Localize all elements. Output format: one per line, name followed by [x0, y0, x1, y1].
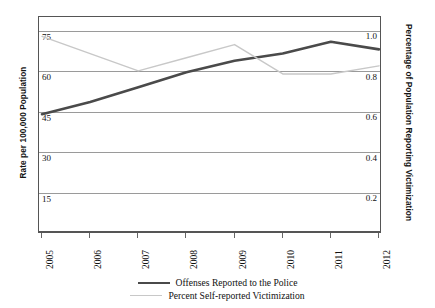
x-axis-tick-label: 2009 [238, 250, 248, 269]
x-axis-tick [282, 233, 283, 238]
legend-item-label: Offenses Reported to the Police [176, 277, 298, 288]
legend-item-label: Percent Self-reported Victimization [168, 290, 304, 301]
legend-line-swatch-icon [130, 295, 162, 296]
x-axis-tick-label: 2008 [189, 250, 199, 269]
x-axis-tick [378, 233, 379, 238]
x-axis-tick-label: 2012 [382, 250, 392, 269]
series-layer [39, 17, 382, 233]
x-axis-tick [330, 233, 331, 238]
x-axis-tick-label: 2006 [93, 250, 103, 269]
line-chart: Rate per 100,000 Population Percentage o… [0, 0, 435, 308]
x-axis [38, 232, 381, 233]
plot-area: 1530456075 0.20.40.60.81.0 [38, 16, 381, 232]
legend-item[interactable]: Offenses Reported to the Police [138, 277, 298, 288]
x-axis-tick [137, 233, 138, 238]
x-axis-tick-label: 2005 [45, 250, 55, 269]
x-axis-tick [41, 233, 42, 238]
legend-line-swatch-icon [138, 282, 170, 284]
y-axis-right-title: Percentage of Population Reporting Victi… [404, 8, 413, 238]
x-axis-tick-label: 2007 [141, 250, 151, 269]
chart-legend: Offenses Reported to the PolicePercent S… [0, 277, 435, 301]
x-axis-tick-label: 2011 [334, 250, 344, 269]
x-axis-tick-labels: 20052006200720082009201020112012 [38, 239, 381, 273]
x-axis-tick [234, 233, 235, 238]
legend-item[interactable]: Percent Self-reported Victimization [130, 290, 304, 301]
y-axis-left-title: Rate per 100,000 Population [19, 23, 28, 223]
series-line-1 [42, 42, 379, 114]
x-axis-tick-label: 2010 [286, 250, 296, 269]
x-axis-tick [185, 233, 186, 238]
x-axis-tick [89, 233, 90, 238]
